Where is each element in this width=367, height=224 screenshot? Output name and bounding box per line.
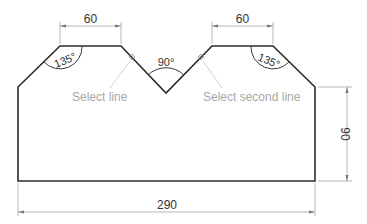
prompt-select-second-line: Select second line [203, 90, 301, 104]
dimension-top-left-label: 60 [84, 12, 98, 26]
angle-center-label: 90° [158, 56, 175, 68]
prompt-select-line: Select line [72, 90, 128, 104]
angle-left-label: 135° [52, 50, 78, 70]
dimension-right-height-label: 90 [338, 127, 352, 141]
cad-drawing-canvas: 60 60 90 290 135° 90° 135° Select line S… [0, 0, 367, 224]
angle-right-label: 135° [256, 51, 282, 71]
dimension-overall-width-label: 290 [157, 198, 177, 212]
leader-first [110, 61, 130, 88]
angle-arc-center[interactable] [148, 68, 184, 75]
leader-second [203, 61, 222, 88]
dimension-top-right-label: 60 [236, 12, 250, 26]
